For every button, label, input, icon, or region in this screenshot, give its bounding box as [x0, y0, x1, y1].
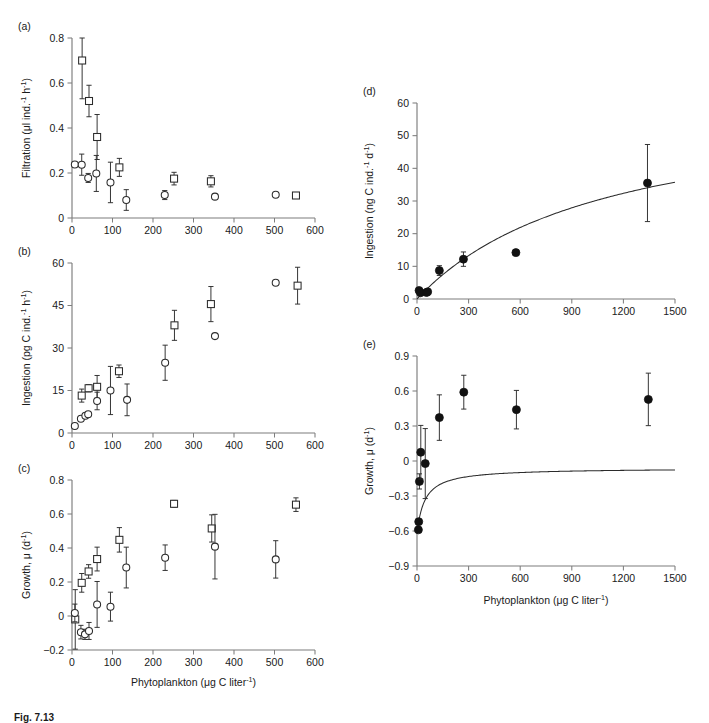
data-point-square: [171, 500, 178, 507]
data-point-circle: [272, 279, 279, 286]
x-tick-label-d: 900: [563, 305, 581, 317]
y-axis-title-a: Filtration (μl ind.-1 h-1): [19, 78, 33, 178]
data-point-circle: [211, 193, 218, 200]
x-tick-label-c: 300: [185, 656, 203, 668]
panel-b: (b)0100200300400500600015304560Ingestion…: [0, 245, 345, 463]
y-tick-label-e: −0.3: [388, 490, 409, 502]
data-point-circle: [124, 396, 131, 403]
panel-letter-a: (a): [18, 20, 31, 32]
y-tick-label-d: 0: [403, 293, 409, 305]
y-axis-title-d: Ingestion (ng C ind.-1 d-1): [362, 143, 376, 259]
x-tick-label-e: 0: [414, 572, 420, 584]
data-point-circle: [272, 556, 279, 563]
data-point-filled: [435, 414, 443, 422]
data-point-square: [115, 368, 122, 375]
x-tick-label-c: 600: [306, 656, 324, 668]
y-tick-label-d: 50: [397, 129, 409, 141]
data-point-square: [94, 556, 101, 563]
data-point-circle: [78, 161, 85, 168]
data-point-square: [171, 322, 178, 329]
x-tick-label-b: 100: [104, 439, 122, 451]
data-point-circle: [161, 192, 168, 199]
chart-c: (c)0100200300400500600−0.200.20.40.60.8G…: [0, 462, 345, 712]
x-tick-label-c: 400: [225, 656, 243, 668]
y-tick-label-a: 0.8: [49, 32, 64, 44]
data-point-filled: [459, 255, 467, 263]
y-tick-label-d: 40: [397, 162, 409, 174]
x-tick-label-d: 1500: [663, 305, 687, 317]
y-tick-label-c: 0.6: [49, 508, 64, 520]
data-point-square: [116, 164, 123, 171]
data-point-square: [292, 501, 299, 508]
x-axis-title-c: Phytoplankton (μg C liter-1): [131, 675, 256, 689]
svg-text:Growth, μ (d-1): Growth, μ (d-1): [19, 531, 33, 599]
x-tick-label-a: 500: [266, 224, 284, 236]
data-point-square: [207, 178, 214, 185]
data-point-filled: [512, 249, 520, 257]
series-b-squares: [78, 267, 301, 402]
y-tick-label-e: 0.6: [394, 385, 409, 397]
chart-e: (e)030060090012001500−0.9−0.6−0.300.30.6…: [345, 338, 709, 628]
data-point-circle: [162, 554, 169, 561]
panel-a: (a)010020030040050060000.20.40.60.8Filtr…: [0, 18, 345, 246]
fit-curve-e: [417, 470, 675, 533]
x-tick-label-c: 500: [266, 656, 284, 668]
y-axis-title-c: Growth, μ (d-1): [19, 531, 33, 599]
series-e-filled: [414, 373, 652, 534]
x-tick-label-b: 600: [306, 439, 324, 451]
data-point-circle: [93, 170, 100, 177]
y-tick-label-e: −0.9: [388, 560, 409, 572]
y-tick-label-d: 30: [397, 195, 409, 207]
data-point-circle: [71, 609, 78, 616]
x-tick-label-a: 200: [144, 224, 162, 236]
x-tick-label-a: 300: [185, 224, 203, 236]
data-point-circle: [85, 174, 92, 181]
data-point-circle: [94, 601, 101, 608]
data-point-square: [171, 175, 178, 182]
y-tick-label-a: 0.2: [49, 167, 64, 179]
x-axis-title-e: Phytoplankton (μg C liter-1): [483, 593, 608, 607]
x-tick-label-a: 600: [306, 224, 324, 236]
data-point-square: [94, 383, 101, 390]
svg-text:Ingestion (pg C ind.-1 h-1): Ingestion (pg C ind.-1 h-1): [19, 290, 33, 406]
x-tick-label-b: 200: [144, 439, 162, 451]
data-point-circle: [107, 179, 114, 186]
data-point-circle: [272, 191, 279, 198]
chart-a: (a)010020030040050060000.20.40.60.8Filtr…: [0, 18, 345, 246]
y-tick-label-c: −0.2: [43, 644, 64, 656]
y-axis-title-b: Ingestion (pg C ind.-1 h-1): [19, 290, 33, 406]
data-point-square: [116, 536, 123, 543]
data-point-circle: [211, 333, 218, 340]
data-point-circle: [123, 197, 130, 204]
series-d-filled: [415, 144, 651, 296]
y-tick-label-a: 0.4: [49, 122, 64, 134]
series-b-circles: [71, 279, 279, 429]
figure-caption: Fig. 7.13: [14, 712, 54, 723]
data-point-filled: [415, 518, 423, 526]
data-point-square: [78, 392, 85, 399]
svg-text:Ingestion (ng C ind.-1 d-1): Ingestion (ng C ind.-1 d-1): [362, 143, 376, 259]
x-tick-label-c: 100: [104, 656, 122, 668]
panel-d: (d)0300600900120015000102030405060Ingest…: [345, 85, 709, 335]
y-tick-label-c: 0: [58, 610, 64, 622]
data-point-square: [292, 192, 299, 199]
x-tick-label-d: 600: [511, 305, 529, 317]
x-tick-label-e: 1200: [612, 572, 636, 584]
x-tick-label-b: 400: [225, 439, 243, 451]
data-point-circle: [107, 603, 114, 610]
y-tick-label-e: 0.9: [394, 350, 409, 362]
y-tick-label-a: 0.6: [49, 77, 64, 89]
data-point-circle: [211, 543, 218, 550]
data-point-circle: [162, 359, 169, 366]
y-tick-label-b: 30: [52, 342, 64, 354]
data-point-square: [85, 385, 92, 392]
x-tick-label-a: 0: [69, 224, 75, 236]
x-tick-label-d: 300: [460, 305, 478, 317]
chart-b: (b)0100200300400500600015304560Ingestion…: [0, 245, 345, 463]
fit-curve-d: [417, 182, 675, 299]
data-point-circle: [94, 397, 101, 404]
y-tick-label-b: 0: [58, 427, 64, 439]
panel-letter-e: (e): [363, 338, 376, 350]
panel-letter-c: (c): [18, 462, 30, 474]
y-tick-label-c: 0.8: [49, 474, 64, 486]
